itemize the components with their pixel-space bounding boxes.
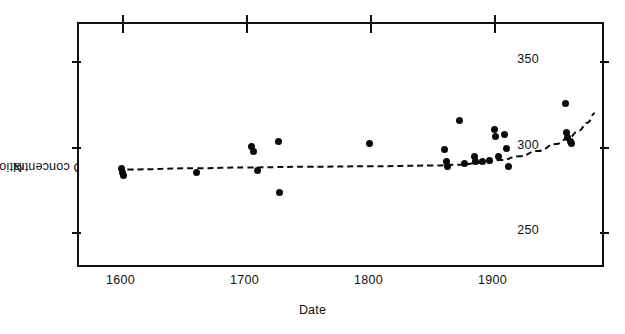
data-point <box>492 133 499 140</box>
data-point <box>479 158 486 165</box>
y-axis-tick-right <box>600 61 609 63</box>
data-point <box>254 167 261 174</box>
data-point <box>275 138 282 145</box>
x-axis-tick-label: 1800 <box>338 274 398 286</box>
x-axis-title: Date <box>0 303 625 317</box>
y-axis-tick <box>72 61 81 63</box>
y-axis-tick-right <box>600 147 609 149</box>
data-point <box>505 163 512 170</box>
x-axis-tick-top <box>370 23 372 33</box>
data-point <box>193 169 200 176</box>
y-axis-tick-right <box>600 232 609 234</box>
data-point <box>120 172 127 179</box>
x-axis-tick-label: 1700 <box>214 274 274 286</box>
y-axis-tick-label: 350 <box>517 53 539 65</box>
data-point <box>503 145 510 152</box>
data-point <box>501 131 508 138</box>
data-point <box>366 140 373 147</box>
data-point <box>486 157 493 164</box>
y-axis-tick-label: 250 <box>517 224 539 236</box>
x-axis-tick-top <box>122 23 124 33</box>
y-axis-tick <box>72 232 81 234</box>
y-axis-tick-label: 300 <box>517 139 539 151</box>
y-axis-title-suffix: O concentration (ppbv) <box>0 160 83 174</box>
x-axis-tick-top <box>494 23 496 33</box>
x-axis-tick-label: 1600 <box>90 274 150 286</box>
data-point <box>491 126 498 133</box>
data-point <box>495 153 502 160</box>
x-axis-tick-top <box>246 23 248 33</box>
y-axis-title: N2O concentration (ppbv) <box>6 0 28 334</box>
figure-scatter-n2o-vs-date: N2O concentration (ppbv) Date 2503003501… <box>0 0 625 334</box>
y-axis-tick <box>72 147 81 149</box>
x-axis-tick-label: 1900 <box>462 274 522 286</box>
data-point <box>568 140 575 147</box>
